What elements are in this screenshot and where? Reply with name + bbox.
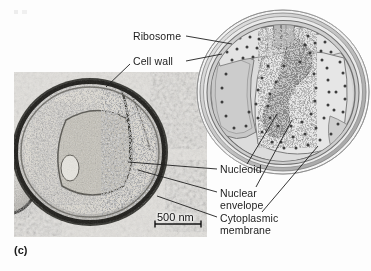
label-nuclear-envelope-line1: Nuclear [220,187,257,199]
schematic-cell-diagram [196,9,369,174]
label-nuclear-envelope: Nuclear envelope [220,188,286,211]
label-nucleoid: Nucleoid [220,164,262,176]
label-cytoplasmic-membrane-line2: membrane [220,224,271,236]
scale-bar-label: 500 nm [157,211,194,223]
label-cytoplasmic-membrane-line1: Cytoplasmic [220,212,278,224]
label-cytoplasmic-membrane: Cytoplasmic membrane [220,213,286,236]
label-cell-wall: Cell wall [133,56,173,68]
panel-label: (c) [14,244,27,256]
figure-canvas [0,0,371,271]
figure-panel-c [0,0,371,271]
label-ribosome: Ribosome [133,31,181,43]
label-nuclear-envelope-line2: envelope [220,199,263,211]
